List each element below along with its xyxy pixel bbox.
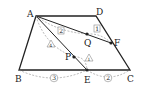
point-q bbox=[85, 32, 88, 35]
point-f bbox=[109, 41, 112, 44]
point-p bbox=[72, 55, 75, 58]
label-b: B bbox=[15, 74, 22, 84]
ratio-aq-text: 2 bbox=[59, 27, 63, 34]
ratio-qf-text: 1 bbox=[95, 25, 99, 32]
point-e bbox=[85, 68, 88, 71]
label-a: A bbox=[26, 9, 34, 19]
ratio-be-text: 3 bbox=[52, 74, 56, 81]
label-c: C bbox=[127, 74, 134, 84]
label-e: E bbox=[84, 75, 91, 85]
segment-ae bbox=[36, 16, 87, 70]
label-q: Q bbox=[84, 38, 91, 48]
ratio-ec-text: 2 bbox=[106, 74, 110, 81]
label-p: P bbox=[65, 52, 71, 62]
ratio-ap-text: 4 bbox=[49, 43, 52, 48]
label-d: D bbox=[96, 7, 103, 17]
ratio-pe-text: 1 bbox=[88, 57, 91, 62]
trapezoid-diagram: A D B C E F Q P 2 1 4 1 3 2 bbox=[0, 0, 141, 91]
label-f: F bbox=[114, 38, 120, 48]
